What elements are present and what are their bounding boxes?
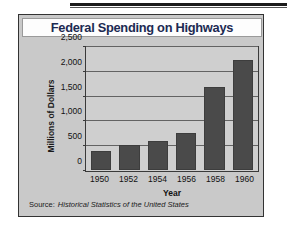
plot-wrapper: 05001,0001,5002,0002,500 <box>85 46 259 172</box>
y-axis-tick-label: 0 <box>77 156 82 166</box>
bar-slot <box>200 48 228 170</box>
bar-1960 <box>233 60 253 170</box>
x-axis-tick-label: 1954 <box>143 174 172 184</box>
x-axis-tick-label: 1960 <box>230 174 259 184</box>
y-axis-tick-label: 1,500 <box>61 82 82 92</box>
bar-1950 <box>91 151 111 170</box>
chart-figure-card: Federal Spending on Highways Millions of… <box>18 14 264 217</box>
bar-1956 <box>176 133 196 170</box>
page-top-rule <box>70 3 287 6</box>
x-axis-tick-label: 1950 <box>85 174 114 184</box>
x-axis-tick-label: 1952 <box>114 174 143 184</box>
bar-1952 <box>119 145 139 170</box>
x-axis-tick-labels: 195019521954195619581960 <box>85 174 259 184</box>
x-axis-tick-label: 1958 <box>201 174 230 184</box>
bar-1954 <box>148 141 168 170</box>
y-axis-tick-mark <box>83 145 86 146</box>
bar-slot <box>144 48 172 170</box>
bars-group <box>87 48 257 170</box>
y-axis-tick-mark <box>83 170 86 171</box>
y-axis-tick-label: 2,000 <box>61 57 82 67</box>
plot-area: 05001,0001,5002,0002,500 <box>85 46 259 172</box>
y-axis-tick-label: 1,000 <box>61 106 82 116</box>
source-note-label: Source: <box>29 200 55 209</box>
gridline <box>86 46 258 47</box>
y-axis-tick-mark <box>83 71 86 72</box>
chart-title-band: Federal Spending on Highways <box>22 18 262 37</box>
y-axis-tick-label: 500 <box>68 131 82 141</box>
y-axis-tick-mark <box>83 46 86 47</box>
x-axis-title: Year <box>85 188 259 198</box>
y-axis-tick-mark <box>83 120 86 121</box>
bar-slot <box>229 48 257 170</box>
y-axis-tick-label: 2,500 <box>61 32 82 42</box>
y-axis-tick-mark <box>83 96 86 97</box>
bar-1958 <box>204 87 224 170</box>
bar-slot <box>87 48 115 170</box>
bar-slot <box>172 48 200 170</box>
x-axis-tick-label: 1956 <box>172 174 201 184</box>
page-top-rule-secondary <box>70 7 287 8</box>
bar-slot <box>115 48 143 170</box>
source-note-text: Historical Statistics of the United Stat… <box>58 200 189 209</box>
source-note: Source:Historical Statistics of the Unit… <box>29 200 189 209</box>
y-axis-title: Millions of Dollars <box>46 61 56 171</box>
